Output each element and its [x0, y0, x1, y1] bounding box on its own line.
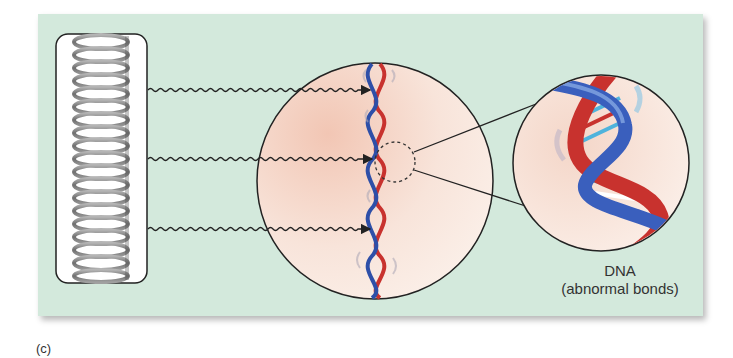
- dna-label: DNA (abnormal bonds): [540, 262, 700, 298]
- zoomed-dna-circle: [513, 70, 689, 265]
- magnified-dna-circle: [257, 63, 493, 299]
- diagram-artwork: [0, 0, 733, 358]
- panel-label: (c): [36, 342, 51, 356]
- dna-label-subtitle: (abnormal bonds): [540, 280, 700, 298]
- dna-label-title: DNA: [540, 262, 700, 280]
- lamp-coil-icon: [56, 34, 147, 283]
